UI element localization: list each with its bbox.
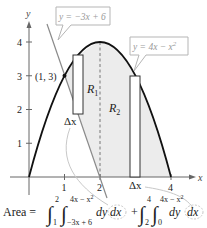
y-tick-label-4: 4 (17, 37, 22, 48)
callout-parabola-equation: y = 4x − x2 (130, 37, 188, 71)
int1-dy: dy (96, 205, 108, 219)
y-axis-arrow-icon (27, 21, 32, 28)
x-tick-label-2: 2 (97, 182, 102, 193)
svg-text:y = −3x + 6: y = −3x + 6 (58, 12, 106, 22)
int2-inner-lower: 0 (158, 218, 162, 227)
callout-line-equation: y = −3x + 6 (56, 7, 110, 40)
area-diagram: 1 2 4 1 2 3 4 x y (1, 3) R1 R2 Δx Δx y =… (0, 0, 207, 228)
formula-lead: Area = (3, 205, 36, 219)
x-axis-label: x (197, 172, 203, 183)
delta-x-label-2: Δx (129, 179, 142, 191)
int2-dx: dx (187, 205, 199, 219)
int2-upper: 4 (147, 195, 151, 204)
rectangle-r1 (73, 55, 83, 114)
x-tick-label-1: 1 (62, 182, 67, 193)
int2-lower: 2 (145, 218, 149, 227)
int1-dx: dx (110, 205, 122, 219)
int1-upper: 2 (55, 195, 59, 204)
formula-plus: + (131, 205, 138, 219)
x-axis-arrow-icon (189, 175, 196, 180)
delta-x-label-1: Δx (64, 115, 77, 127)
y-tick-label-3: 3 (17, 71, 22, 82)
int1-inner-lower: −3x + 6 (67, 218, 92, 227)
y-axis-label: y (25, 8, 31, 19)
int1-lower: 1 (53, 218, 57, 227)
y-tick-label-2: 2 (17, 104, 22, 115)
svg-text:y = 4x − x2: y = 4x − x2 (132, 40, 177, 52)
x-tick-label-4: 4 (168, 182, 173, 193)
area-formula: Area = ∫ 2 1 ∫ 4x − x2 −3x + 6 dy dx + ∫… (3, 194, 203, 227)
rectangle-r2 (130, 76, 140, 177)
point-marker (63, 74, 67, 78)
y-tick-label-1: 1 (17, 138, 22, 149)
int1-inner-upper: 4x − x2 (70, 194, 94, 204)
int2-dy: dy (169, 205, 181, 219)
int2-inner-upper: 4x − x2 (160, 194, 184, 204)
point-label: (1, 3) (35, 71, 57, 83)
